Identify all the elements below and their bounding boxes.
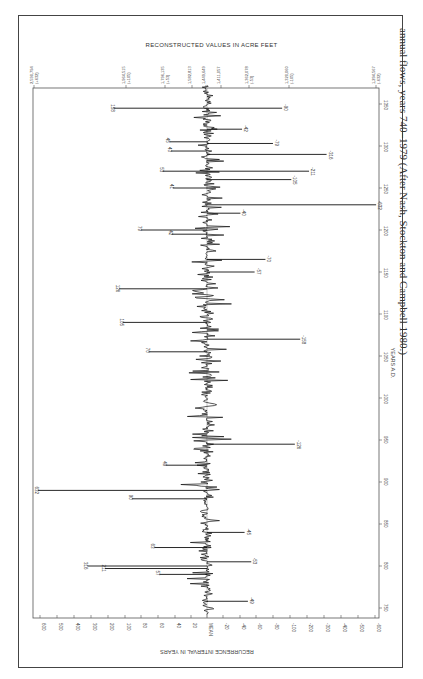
event-label: 316 (83, 562, 88, 570)
year-tick-label: 1000 (383, 394, 388, 405)
event-label: 70 (145, 348, 150, 354)
event-label: 158 (110, 104, 115, 112)
event-label: -90 (283, 104, 288, 111)
recurrence-tick-label: 80 (142, 623, 147, 629)
recurrence-tick-label: -80 (274, 623, 279, 630)
value-tick-interval: (+53) (165, 74, 170, 84)
event-label: -42 (243, 125, 248, 132)
flow-series-line (181, 86, 232, 615)
value-tick-label: 1,582,813 (187, 65, 192, 84)
event-label: -632 (377, 201, 382, 211)
year-tick-label: 1250 (383, 184, 388, 195)
year-tick-label: 750 (383, 604, 388, 612)
event-label: 90 (128, 495, 133, 501)
event-label: 43 (167, 147, 172, 153)
recurrence-tick-label: -40 (241, 623, 246, 630)
recurrence-tick-label: 300 (92, 623, 97, 631)
recurrence-tick-label: -200 (308, 623, 313, 633)
event-label: 79 (137, 226, 142, 232)
event-label: 45 (165, 138, 170, 144)
event-label: 41 (169, 184, 174, 190)
event-label: 63 (150, 544, 155, 550)
year-tick-label: 850 (383, 520, 388, 528)
recurrence-axis-title: RECURRENCE INTERVAL IN YEARS (160, 649, 254, 655)
value-tick-label: 1,411,057 (216, 66, 221, 84)
recurrence-tick-label: -500 (359, 623, 364, 633)
value-tick-interval: (+105) (126, 72, 131, 84)
year-tick-label: 1350 (383, 100, 388, 111)
event-label: 53 (159, 167, 164, 173)
value-tick-label: 1,449,649 (201, 65, 206, 84)
value-tick-interval: (+632) (34, 72, 39, 84)
recurrence-tick-label: 400 (75, 623, 80, 631)
plot-area (33, 88, 379, 618)
event-label: -79 (274, 139, 279, 146)
event-label: 632 (34, 486, 39, 494)
year-tick-label: 900 (383, 478, 388, 486)
event-label: 57 (155, 570, 160, 576)
year-tick-label: 1100 (383, 310, 388, 320)
value-tick-interval: (-105) (289, 73, 294, 84)
recurrence-tick-label: 500 (58, 623, 63, 631)
event-label: -53 (252, 558, 257, 565)
event-label: -126 (296, 440, 301, 450)
event-label: -49 (249, 597, 254, 604)
value-tick-interval: (-632) (376, 73, 381, 84)
year-tick-label: 1150 (383, 268, 388, 278)
event-label: 42 (168, 230, 173, 236)
recurrence-tick-label: -100 (291, 623, 296, 633)
recurrence-tick-label: 20 (192, 623, 197, 629)
year-tick-label: 800 (383, 562, 388, 570)
event-label: -57 (256, 268, 261, 275)
event-label: -70 (266, 255, 271, 262)
year-tick-label: 950 (383, 436, 388, 444)
year-axis-title: YEARS A.D. (390, 348, 396, 379)
event-label: -211 (310, 167, 315, 176)
event-label: 49 (162, 461, 167, 467)
recurrence-tick-label: -60 (257, 623, 262, 630)
event-label: 126 (115, 285, 120, 293)
recurrence-tick-label: -300 (325, 623, 330, 633)
recurrence-tick-label: -20 (224, 623, 229, 630)
recurrence-tick-label: -600 (376, 623, 381, 633)
year-tick-label: 1300 (383, 142, 388, 153)
recurrence-tick-label: 60 (159, 623, 164, 629)
chart-plot: 60050040030020010080604020MEAN-20-40-60-… (0, 0, 423, 679)
recurrence-tick-label: 40 (176, 623, 181, 629)
event-label: 211 (101, 565, 106, 573)
event-label: 105 (119, 318, 124, 326)
event-label: -45 (246, 528, 251, 535)
event-label: -316 (328, 150, 333, 160)
recurrence-tick-label: -400 (342, 623, 347, 633)
recurrence-tick-label: 200 (109, 623, 114, 631)
value-tick-interval: (-53) (249, 75, 254, 84)
recurrence-tick-label: MEAN (208, 623, 213, 636)
event-label: -105 (292, 176, 297, 186)
year-tick-label: 1050 (383, 352, 388, 363)
recurrence-tick-label: 100 (126, 623, 131, 631)
recurrence-tick-label: 600 (41, 623, 46, 631)
event-label: -40 (241, 209, 246, 216)
event-label: -158 (301, 335, 306, 345)
year-tick-label: 1200 (383, 226, 388, 237)
